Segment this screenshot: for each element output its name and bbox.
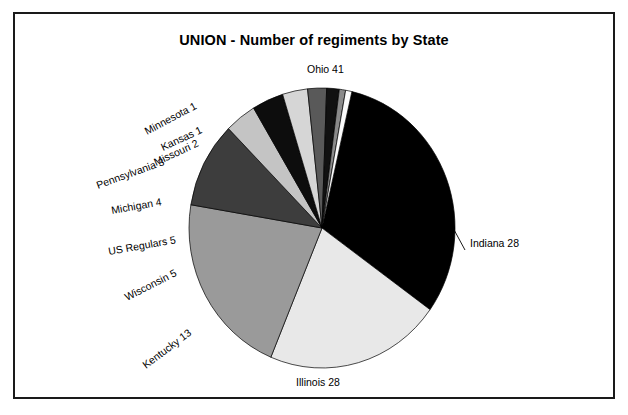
pie-slice-label: US Regulars 5: [107, 233, 176, 257]
chart-frame: UNION - Number of regiments by State Ohi…: [13, 12, 615, 399]
pie-slice-label: Ohio 41: [307, 63, 344, 75]
pie-chart: Ohio 41Indiana 28Illinois 28Kentucky 13W…: [15, 14, 617, 401]
pie-slice-label: Wisconsin 5: [122, 266, 178, 302]
pie-slice-label: Kentucky 13: [140, 326, 193, 370]
pie-svg: Ohio 41Indiana 28Illinois 28Kentucky 13W…: [15, 14, 617, 401]
pie-slice-label: Illinois 28: [296, 376, 340, 388]
pie-slice-label: Michigan 4: [110, 195, 162, 216]
pie-slice-label: Indiana 28: [470, 237, 519, 249]
pie-slice-group: [189, 88, 455, 368]
